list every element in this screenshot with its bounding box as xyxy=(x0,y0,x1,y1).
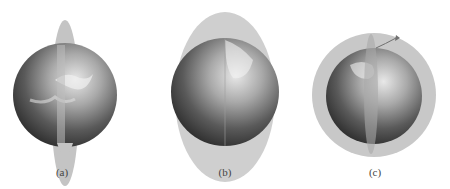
panel-label: (b) xyxy=(205,166,245,178)
panel-a: (a) xyxy=(0,0,150,189)
earth-equatorial-and-polar-orbit-figure xyxy=(300,0,450,189)
earth-polar-orbit-wide-figure xyxy=(150,0,300,189)
panel-label: (c) xyxy=(355,166,395,178)
earth-polar-orbit-narrow-figure xyxy=(0,0,150,189)
panel-c: (c) xyxy=(300,0,450,189)
panel-label: (a) xyxy=(42,166,82,178)
polar-orbit-plane xyxy=(364,34,378,154)
panel-b: (b) xyxy=(150,0,300,189)
orbit-plane-front xyxy=(57,45,65,143)
